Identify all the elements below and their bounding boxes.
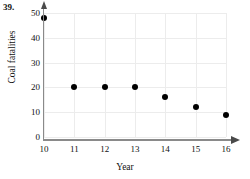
x-axis-tick-labels: 10111213141516 [0,145,250,159]
data-point [102,84,108,90]
y-axis-tick-label: 0 [18,133,40,142]
gridline-vertical [74,13,75,137]
y-axis-tick-label: 50 [18,9,40,18]
x-axis-tick-label: 16 [214,145,238,154]
gridline-vertical [196,13,197,137]
x-axis-arrow-icon [231,136,240,144]
x-axis-tick-label: 10 [32,145,56,154]
data-point [132,84,138,90]
gridline-horizontal [44,112,226,113]
gridline-vertical [226,13,227,137]
y-axis-line [43,8,44,140]
data-point [193,104,199,110]
x-axis-line [43,139,233,141]
gridline-horizontal [44,38,226,39]
problem-number-label: 39. [3,2,14,12]
data-point [162,94,168,100]
y-axis-tick-label: 10 [18,108,40,117]
gridline-vertical [135,13,136,137]
gridline-horizontal [44,63,226,64]
data-point [223,112,229,118]
y-axis-tick-label: 30 [18,59,40,68]
y-axis-tick-label: 40 [18,34,40,43]
x-axis-tick-label: 15 [184,145,208,154]
x-axis-tick-label: 12 [93,145,117,154]
x-axis-tick-label: 13 [123,145,147,154]
data-point [71,84,77,90]
gridline-horizontal [44,13,226,14]
coal-fatalities-scatter-figure: 39. Coal fatalities Year 01020304050 101… [0,0,250,179]
x-axis-tick-label: 14 [153,145,177,154]
x-axis-tick-label: 11 [62,145,86,154]
gridline-vertical [105,13,106,137]
y-axis-arrow-icon [41,1,47,9]
y-axis-tick-label: 20 [18,83,40,92]
gridline-horizontal [44,137,226,138]
gridline-vertical [165,13,166,137]
plot-area [44,13,226,137]
